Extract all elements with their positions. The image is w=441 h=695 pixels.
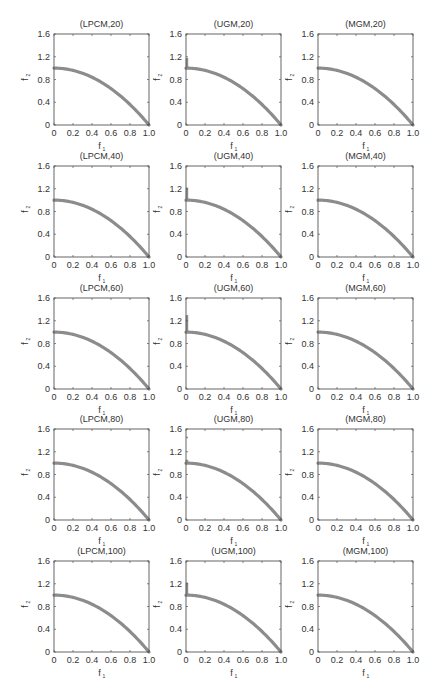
pareto-front-curve	[54, 463, 149, 520]
chart-title: (MGM,40)	[345, 151, 386, 161]
x-tick-label: 0	[183, 128, 188, 138]
x-tick-label: 1.0	[143, 392, 156, 402]
y-axis-label: f2	[20, 469, 31, 476]
x-axis-label: f	[362, 536, 365, 546]
y-tick-label: 0.4	[37, 492, 50, 502]
pareto-front-curve	[186, 200, 281, 257]
y-tick-label: 0.4	[169, 229, 182, 239]
x-tick-label: 0	[51, 392, 56, 402]
y-tick-label: 1.6	[37, 424, 50, 434]
x-tick-label: 0.4	[218, 392, 231, 402]
y-axis-label: f2	[152, 74, 163, 81]
x-tick-label: 1.0	[407, 655, 420, 665]
y-tick-label: 0.8	[37, 207, 50, 217]
x-tick-label: 0.2	[331, 655, 344, 665]
x-tick-label: 1.0	[407, 260, 420, 270]
y-tick-label: 0.8	[169, 339, 182, 349]
x-tick-label: 0.2	[199, 523, 212, 533]
chart-title: (LPCM,20)	[80, 19, 124, 29]
x-tick-label: 0.2	[199, 128, 212, 138]
x-axis-label: f	[98, 668, 101, 678]
svg-text:2: 2	[289, 74, 295, 77]
y-tick-label: 1.2	[37, 579, 50, 589]
chart-panel: (LPCM,60)00.20.40.60.81.000.40.81.21.6f1…	[54, 298, 149, 389]
y-tick-label: 0.4	[301, 492, 314, 502]
chart-title: (UGM,80)	[214, 414, 254, 424]
x-tick-label: 0.6	[237, 128, 250, 138]
x-tick-label: 0.2	[67, 128, 80, 138]
y-tick-label: 1.6	[301, 29, 314, 39]
chart-panel: (LPCM,20)00.20.40.60.81.000.40.81.21.6f1…	[54, 34, 149, 125]
x-tick-label: 1.0	[275, 128, 288, 138]
y-tick-label: 0	[45, 515, 50, 525]
svg-text:f: f	[152, 210, 162, 213]
svg-text:2: 2	[289, 338, 295, 341]
chart-panel: (UGM,20)00.20.40.60.81.000.40.81.21.6f1f…	[186, 34, 281, 125]
svg-text:2: 2	[157, 206, 163, 209]
svg-text:f: f	[20, 78, 30, 81]
chart-panel: (MGM,60)00.20.40.60.81.000.40.81.21.6f1f…	[318, 298, 413, 389]
y-tick-label: 1.6	[301, 424, 314, 434]
y-tick-label: 0.4	[301, 361, 314, 371]
chart-title: (LPCM,80)	[80, 414, 124, 424]
y-axis-label: f2	[152, 601, 163, 608]
y-tick-label: 1.6	[169, 29, 182, 39]
y-tick-label: 1.6	[169, 293, 182, 303]
x-tick-label: 0.8	[124, 392, 137, 402]
pareto-front-curve	[318, 200, 413, 257]
y-tick-label: 0	[309, 120, 314, 130]
y-tick-label: 0.8	[169, 75, 182, 85]
chart-panel: (LPCM,100)00.20.40.60.81.000.40.81.21.6f…	[54, 561, 149, 652]
x-tick-label: 0.4	[218, 523, 231, 533]
y-tick-label: 0.4	[301, 229, 314, 239]
x-tick-label: 0.6	[105, 128, 118, 138]
y-tick-label: 1.2	[169, 184, 182, 194]
svg-text:2: 2	[289, 469, 295, 472]
svg-text:2: 2	[157, 469, 163, 472]
pareto-front-curve	[54, 68, 149, 125]
x-axis-label: f	[230, 141, 233, 151]
y-tick-label: 1.6	[37, 556, 50, 566]
y-tick-label: 0	[45, 384, 50, 394]
y-tick-label: 1.2	[37, 52, 50, 62]
x-tick-label: 0	[315, 260, 320, 270]
x-tick-label: 0.4	[218, 655, 231, 665]
x-tick-label: 0	[51, 260, 56, 270]
chart-panel: (MGM,40)00.20.40.60.81.000.40.81.21.6f1f…	[318, 166, 413, 257]
svg-text:f: f	[284, 78, 294, 81]
y-tick-label: 1.2	[169, 316, 182, 326]
x-tick-label: 0.6	[369, 655, 382, 665]
y-tick-label: 1.6	[169, 161, 182, 171]
y-tick-label: 0.8	[301, 470, 314, 480]
x-tick-label: 0	[315, 128, 320, 138]
chart-panel: (LPCM,80)00.20.40.60.81.000.40.81.21.6f1…	[54, 429, 149, 520]
pareto-front-curve	[318, 595, 413, 652]
y-tick-label: 1.6	[169, 424, 182, 434]
y-axis-label: f2	[152, 338, 163, 345]
y-tick-label: 0.8	[37, 339, 50, 349]
y-tick-label: 1.6	[37, 161, 50, 171]
x-tick-label: 1.0	[275, 392, 288, 402]
x-axis-label: f	[230, 273, 233, 283]
svg-text:f: f	[152, 342, 162, 345]
y-axis-label: f2	[20, 601, 31, 608]
x-tick-label: 0.6	[237, 655, 250, 665]
y-tick-label: 1.2	[169, 579, 182, 589]
y-tick-label: 0.4	[169, 624, 182, 634]
y-tick-label: 0	[45, 252, 50, 262]
y-tick-label: 0.8	[301, 207, 314, 217]
y-tick-label: 1.6	[37, 293, 50, 303]
chart-title: (MGM,20)	[345, 19, 386, 29]
chart-title: (MGM,100)	[343, 546, 389, 556]
svg-text:2: 2	[25, 206, 31, 209]
x-tick-label: 0.2	[67, 392, 80, 402]
svg-text:f: f	[20, 605, 30, 608]
pareto-front-curve	[318, 332, 413, 389]
chart-title: (LPCM,40)	[80, 151, 124, 161]
pareto-front-curve	[318, 68, 413, 125]
x-tick-label: 1.0	[275, 655, 288, 665]
x-tick-label: 0.4	[350, 523, 363, 533]
x-tick-label: 0.6	[105, 392, 118, 402]
svg-text:f: f	[20, 210, 30, 213]
y-tick-label: 0.8	[301, 339, 314, 349]
